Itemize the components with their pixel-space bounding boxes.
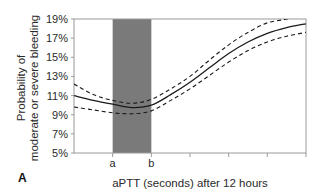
y-axis-label-line1: Probability of: [15, 54, 27, 121]
y-tick-label: 15%: [46, 51, 68, 63]
plot-border: [74, 19, 306, 153]
panel-label: A: [18, 171, 27, 185]
y-tick-label: 7%: [52, 128, 68, 140]
estimate-line: [74, 24, 306, 108]
x-axis: ab: [110, 153, 306, 169]
y-axis-label-line2: moderate or severe bleeding: [28, 15, 40, 161]
shaded-range-a-b: [113, 19, 152, 153]
y-tick-label: 5%: [52, 147, 68, 159]
x-axis-label: aPTT (seconds) after 12 hours: [112, 177, 268, 189]
confidence-bound-line: [74, 13, 301, 103]
series-lines: [74, 13, 306, 114]
y-tick-label: 11%: [47, 90, 68, 102]
chart: 5%7%9%11%13%15%17%19% ab Probability of …: [0, 0, 325, 195]
plot-frame: [74, 19, 306, 153]
x-tick-label: b: [148, 157, 154, 169]
y-tick-label: 9%: [52, 109, 68, 121]
shaded-band: [113, 19, 152, 153]
y-tick-label: 17%: [46, 32, 68, 44]
y-tick-label: 19%: [46, 13, 68, 25]
y-axis: 5%7%9%11%13%15%17%19%: [46, 13, 74, 159]
confidence-bound-line: [74, 32, 306, 113]
x-tick-label: a: [110, 157, 117, 169]
y-tick-label: 13%: [46, 70, 68, 82]
